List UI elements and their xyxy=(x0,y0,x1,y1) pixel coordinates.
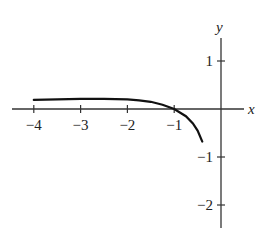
y-tick-label: 1 xyxy=(206,53,214,69)
x-tick-label: −2 xyxy=(119,117,135,133)
x-tick-label: −3 xyxy=(73,117,89,133)
x-tick-label: −4 xyxy=(26,117,42,133)
chart: −4−3−2−1 1−1−2 x y xyxy=(0,0,264,240)
y-tick-label: −2 xyxy=(197,197,213,213)
x-tick-label: −1 xyxy=(166,117,182,133)
y-axis-label: y xyxy=(214,19,223,35)
x-axis-label: x xyxy=(247,101,255,117)
y-tick-label: −1 xyxy=(197,149,213,165)
